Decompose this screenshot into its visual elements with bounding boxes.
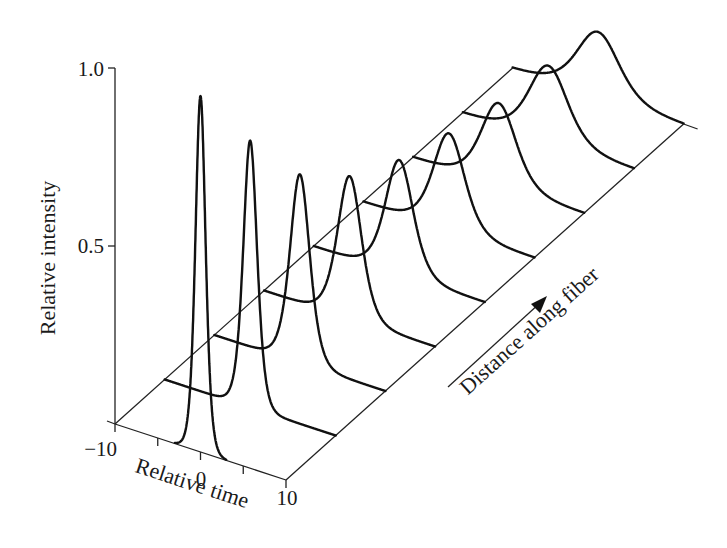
frame-lines	[107, 68, 698, 488]
intensity-axis-title: Relative intensity	[35, 181, 60, 336]
time-tick-label-min: −10	[84, 437, 117, 461]
time-axis-stub	[107, 421, 115, 424]
intensity-tick-label-1: 1.0	[78, 57, 104, 81]
intensity-tick-label-05: 0.5	[78, 234, 104, 258]
pulse-traces	[165, 32, 684, 460]
pulse-trace-8	[463, 66, 634, 169]
time-tick-label-max: 10	[277, 486, 298, 510]
pulse-trace-3	[214, 174, 385, 391]
time-axis-title: Relative time	[132, 453, 252, 513]
distance-axis-label: Distance along fiber	[448, 261, 604, 399]
pulse-trace-6	[364, 133, 535, 257]
fiber-end-stub	[684, 124, 698, 129]
pulse-trace-9	[513, 32, 684, 124]
intensity-axis: 1.0 0.5 Relative intensity	[35, 57, 115, 424]
distance-axis-title: Distance along fiber	[454, 261, 604, 399]
pulse-broadening-chart: 1.0 0.5 Relative intensity −10 0 10 Rela…	[0, 0, 727, 548]
pulse-trace-1	[175, 96, 226, 460]
pulse-trace-5	[314, 160, 485, 302]
